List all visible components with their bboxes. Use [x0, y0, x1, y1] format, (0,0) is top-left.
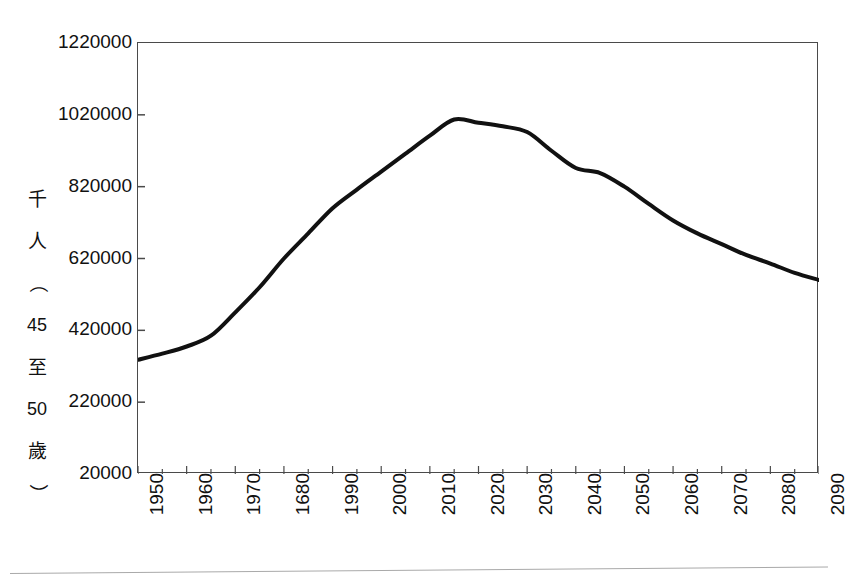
x-axis-tick-labels: 1950196019701680199020002010202020302040… — [137, 473, 818, 553]
x-tick-label: 1970 — [244, 473, 264, 553]
y-tick-label: 620000 — [44, 248, 132, 267]
x-tick-label: 2080 — [779, 473, 799, 553]
x-tick-label: 1680 — [293, 473, 313, 553]
y-tick-label: 1220000 — [44, 32, 132, 51]
x-tick-label: 2040 — [585, 473, 605, 553]
x-tick-label: 2010 — [439, 473, 459, 553]
y-tick-label: 420000 — [44, 319, 132, 338]
x-tick-label: 2060 — [682, 473, 702, 553]
x-tick-label: 1960 — [196, 473, 216, 553]
plot-area — [137, 42, 818, 473]
y-tick-label: 20000 — [44, 463, 132, 482]
x-tick-label: 1950 — [147, 473, 167, 553]
page-bottom-rule — [10, 567, 828, 574]
plot-svg — [138, 43, 819, 474]
x-tick-label: 2020 — [488, 473, 508, 553]
x-tick-label: 2030 — [536, 473, 556, 553]
y-tick-label: 820000 — [44, 176, 132, 195]
x-tick-label: 2090 — [828, 473, 848, 553]
y-tick-label: 220000 — [44, 391, 132, 410]
y-axis-tick-labels: 2000022000042000062000082000010200001220… — [44, 0, 132, 588]
x-tick-label: 2070 — [731, 473, 751, 553]
y-tick-label: 1020000 — [44, 104, 132, 123]
data-series-line — [138, 119, 819, 360]
x-tick-label: 1990 — [342, 473, 362, 553]
x-tick-label: 2050 — [633, 473, 653, 553]
x-tick-label: 2000 — [390, 473, 410, 553]
